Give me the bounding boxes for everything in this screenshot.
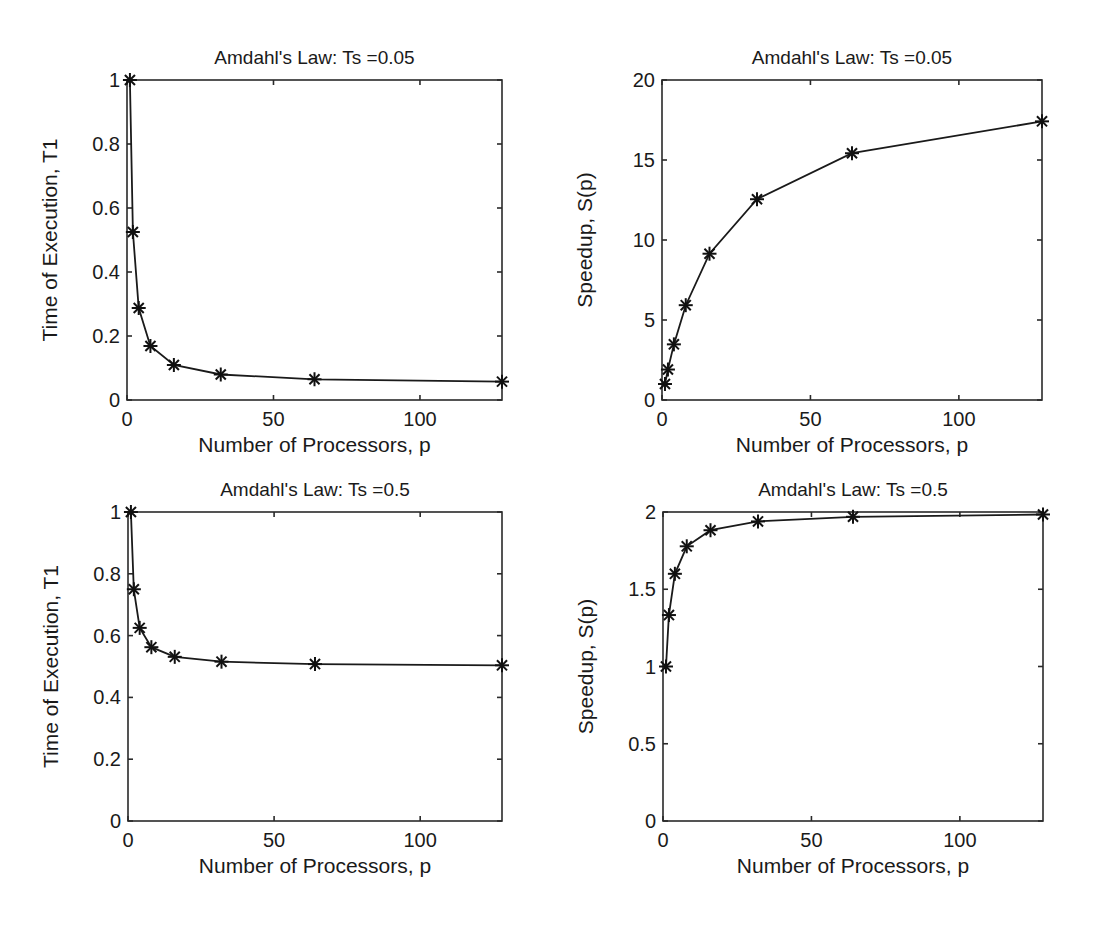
y-tick-label: 0 bbox=[644, 389, 655, 411]
chart-title: Amdahl's Law: Ts =0.5 bbox=[758, 479, 948, 500]
y-tick-label: 10 bbox=[633, 229, 655, 251]
asterisk-marker bbox=[495, 658, 509, 672]
chart-title: Amdahl's Law: Ts =0.05 bbox=[752, 47, 952, 68]
y-tick-label: 20 bbox=[633, 69, 655, 91]
y-tick-label: 15 bbox=[633, 149, 655, 171]
x-tick-label: 100 bbox=[404, 829, 437, 851]
x-tick-label: 0 bbox=[122, 829, 133, 851]
y-tick-label: 1 bbox=[109, 69, 120, 91]
data-line bbox=[131, 512, 502, 665]
x-axis-label: Number of Processors, p bbox=[199, 854, 431, 877]
asterisk-marker bbox=[750, 192, 764, 206]
asterisk-marker bbox=[132, 301, 146, 315]
data-line bbox=[666, 515, 1043, 667]
asterisk-marker bbox=[704, 523, 718, 537]
y-tick-label: 2 bbox=[645, 501, 656, 523]
x-tick-label: 0 bbox=[657, 829, 668, 851]
data-line bbox=[130, 80, 502, 382]
asterisk-marker bbox=[680, 539, 694, 553]
y-tick-label: 0.4 bbox=[92, 261, 120, 283]
y-axis-label: Time of Execution, T1 bbox=[39, 565, 62, 768]
plot-frame bbox=[662, 80, 1042, 400]
chart-title: Amdahl's Law: Ts =0.5 bbox=[220, 479, 410, 500]
y-tick-label: 0.4 bbox=[93, 686, 121, 708]
asterisk-marker bbox=[845, 146, 859, 160]
asterisk-marker bbox=[215, 655, 229, 669]
asterisk-marker bbox=[659, 660, 673, 674]
chart-time-ts-0-05: Amdahl's Law: Ts =0.05 Number of Process… bbox=[38, 47, 509, 456]
asterisk-marker bbox=[127, 582, 141, 596]
asterisk-marker bbox=[143, 339, 157, 353]
asterisk-marker bbox=[167, 358, 181, 372]
y-axis-label: Time of Execution, T1 bbox=[38, 138, 61, 341]
asterisk-marker bbox=[679, 298, 693, 312]
x-tick-label: 50 bbox=[262, 408, 284, 430]
y-tick-label: 0 bbox=[110, 810, 121, 832]
plot-frame bbox=[127, 80, 502, 400]
x-axis-label: Number of Processors, p bbox=[198, 433, 430, 456]
x-tick-label: 0 bbox=[121, 408, 132, 430]
figure: Amdahl's Law: Ts =0.05 Number of Process… bbox=[0, 0, 1100, 934]
y-axis-label: Speedup, S(p) bbox=[573, 172, 596, 307]
asterisk-marker bbox=[1036, 507, 1050, 521]
asterisk-marker bbox=[308, 372, 322, 386]
asterisk-marker bbox=[703, 247, 717, 261]
y-tick-label: 1.5 bbox=[628, 578, 656, 600]
x-tick-label: 100 bbox=[942, 408, 975, 430]
asterisk-marker bbox=[144, 640, 158, 654]
chart-time-ts-0-5: Amdahl's Law: Ts =0.5 Number of Processo… bbox=[39, 479, 509, 877]
asterisk-marker bbox=[123, 73, 137, 87]
y-tick-label: 0.2 bbox=[92, 325, 120, 347]
x-tick-label: 50 bbox=[800, 829, 822, 851]
chart-title: Amdahl's Law: Ts =0.05 bbox=[214, 47, 414, 68]
chart-speedup-ts-0-5: Amdahl's Law: Ts =0.5 Number of Processo… bbox=[574, 479, 1050, 877]
y-tick-label: 1 bbox=[645, 656, 656, 678]
plot-frame bbox=[663, 512, 1043, 821]
asterisk-marker bbox=[124, 505, 138, 519]
asterisk-marker bbox=[668, 567, 682, 581]
data-line bbox=[665, 121, 1042, 384]
x-tick-label: 100 bbox=[943, 829, 976, 851]
x-tick-label: 0 bbox=[656, 408, 667, 430]
y-tick-label: 5 bbox=[644, 309, 655, 331]
y-tick-label: 0.8 bbox=[92, 133, 120, 155]
asterisk-marker bbox=[751, 514, 765, 528]
asterisk-marker bbox=[658, 377, 672, 391]
x-tick-label: 50 bbox=[799, 408, 821, 430]
x-tick-label: 50 bbox=[263, 829, 285, 851]
y-tick-label: 0 bbox=[645, 810, 656, 832]
y-tick-label: 0.2 bbox=[93, 748, 121, 770]
asterisk-marker bbox=[667, 337, 681, 351]
x-tick-label: 100 bbox=[403, 408, 436, 430]
y-tick-label: 0.6 bbox=[92, 197, 120, 219]
asterisk-marker bbox=[1035, 114, 1049, 128]
asterisk-marker bbox=[661, 363, 675, 377]
asterisk-marker bbox=[662, 608, 676, 622]
x-axis-label: Number of Processors, p bbox=[736, 433, 968, 456]
y-tick-label: 1 bbox=[110, 501, 121, 523]
x-axis-label: Number of Processors, p bbox=[737, 854, 969, 877]
asterisk-marker bbox=[126, 225, 140, 239]
y-tick-label: 0.8 bbox=[93, 563, 121, 585]
y-tick-label: 0 bbox=[109, 389, 120, 411]
y-tick-label: 0.6 bbox=[93, 625, 121, 647]
y-axis-label: Speedup, S(p) bbox=[574, 599, 597, 734]
asterisk-marker bbox=[168, 650, 182, 664]
asterisk-marker bbox=[495, 375, 509, 389]
asterisk-marker bbox=[308, 657, 322, 671]
chart-speedup-ts-0-05: Amdahl's Law: Ts =0.05 Number of Process… bbox=[573, 47, 1049, 456]
y-tick-label: 0.5 bbox=[628, 733, 656, 755]
asterisk-marker bbox=[214, 368, 228, 382]
asterisk-marker bbox=[846, 510, 860, 524]
asterisk-marker bbox=[133, 621, 147, 635]
